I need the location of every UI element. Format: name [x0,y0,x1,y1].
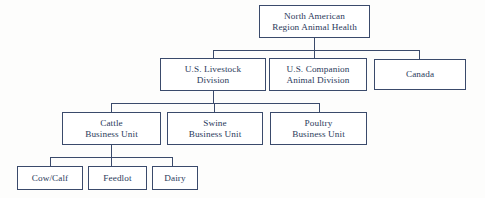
node-poultry-business-unit[interactable]: Poultry Business Unit [270,112,367,145]
connector-level3-bus [111,103,320,104]
node-line-1: Feedlot [103,173,131,183]
node-line-1: U.S. Livestock [185,64,241,74]
node-dairy[interactable]: Dairy [152,166,198,190]
node-line-1: Canada [406,69,434,79]
node-swine-business-unit[interactable]: Swine Business Unit [167,112,263,145]
node-us-companion-animal-division[interactable]: U.S. Companion Animal Division [269,58,367,91]
node-cow-calf[interactable]: Cow/Calf [17,166,83,190]
node-feedlot[interactable]: Feedlot [88,166,147,190]
node-line-2: Business Unit [189,129,242,139]
node-line-2: Business Unit [85,129,138,139]
node-line-2: Division [197,75,229,85]
node-us-livestock-division[interactable]: U.S. Livestock Division [160,58,266,91]
node-line-1: Cattle [100,118,123,128]
node-line-1: Dairy [164,173,185,183]
node-line-1: North American [284,11,345,21]
node-canada[interactable]: Canada [374,59,466,90]
node-line-1: Swine [203,118,226,128]
node-line-1: Cow/Calf [32,173,69,183]
org-chart-diagram: North American Region Animal Health U.S.… [0,0,485,198]
node-line-2: Animal Division [286,75,349,85]
connector-level2-bus [213,50,420,51]
node-cattle-business-unit[interactable]: Cattle Business Unit [62,112,161,145]
node-line-2: Region Animal Health [272,22,357,32]
node-north-american-region-animal-health[interactable]: North American Region Animal Health [259,5,370,38]
node-line-1: U.S. Companion [287,64,350,74]
node-line-1: Poultry [305,118,333,128]
node-line-2: Business Unit [292,129,345,139]
connector-drop-canada [419,50,420,59]
